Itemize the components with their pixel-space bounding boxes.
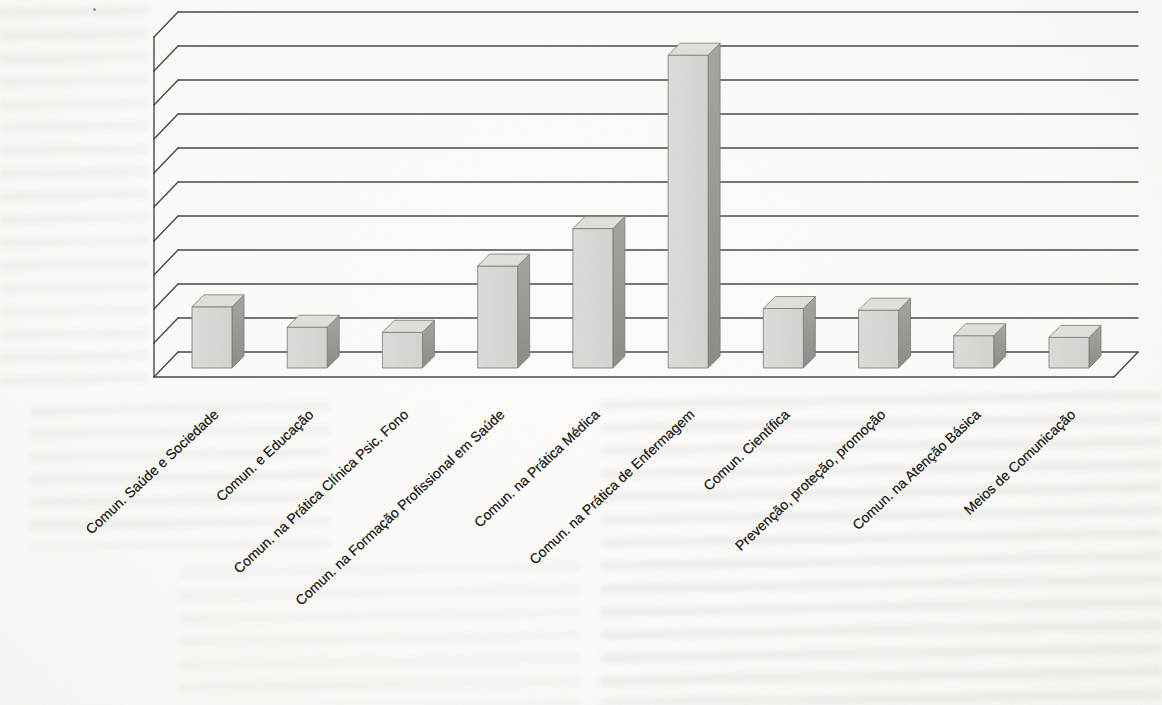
bar bbox=[573, 217, 625, 368]
bar bbox=[859, 298, 911, 368]
bar bbox=[1049, 325, 1101, 368]
bar bbox=[287, 315, 339, 368]
bar bbox=[763, 297, 815, 369]
bar bbox=[192, 295, 244, 368]
bar bbox=[382, 320, 434, 368]
bar bbox=[668, 43, 720, 368]
bar bbox=[478, 254, 530, 368]
bars bbox=[192, 43, 1101, 368]
bar bbox=[954, 324, 1006, 368]
bar-chart-figure bbox=[0, 0, 1162, 705]
scanned-document-page: { "chart_data": { "type": "bar", "varian… bbox=[0, 0, 1162, 705]
